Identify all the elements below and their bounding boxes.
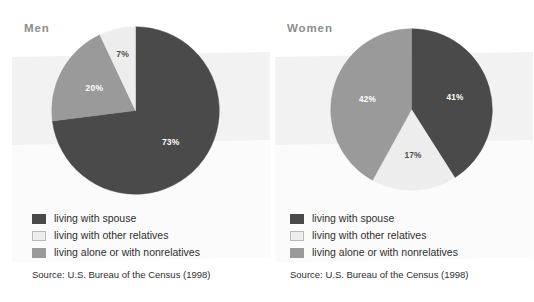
legend-item-spouse[interactable]: living with spouse [32, 211, 200, 226]
legend-item-other-relatives[interactable]: living with other relatives [290, 228, 458, 243]
chart-panel-women: Women 41%17%42% living with spouse livin… [267, 0, 534, 302]
pie-slice-label: 73% [162, 137, 180, 147]
legend-item-alone-nonrelatives[interactable]: living alone or with nonrelatives [290, 245, 458, 260]
legend-item-spouse[interactable]: living with spouse [290, 211, 458, 226]
figure-root: Men 73%20%7% living with spouse living w… [0, 0, 534, 302]
source-note-women: Source: U.S. Bureau of the Census (1998) [290, 269, 469, 280]
other-relatives-swatch-icon [32, 231, 46, 241]
legend-label: living with spouse [312, 213, 394, 224]
legend-label: living with other relatives [312, 230, 426, 241]
pie-slice-label: 7% [116, 49, 129, 59]
other-relatives-swatch-icon [290, 231, 304, 241]
legend-label: living alone or with nonrelatives [312, 247, 458, 258]
pie-chart-men: 73%20%7% [50, 25, 221, 196]
spouse-swatch-icon [32, 214, 46, 224]
chart-title-women: Women [287, 22, 333, 34]
legend-item-alone-nonrelatives[interactable]: living alone or with nonrelatives [32, 245, 200, 260]
pie-slice-label: 41% [446, 93, 464, 102]
chart-panel-men: Men 73%20%7% living with spouse living w… [0, 0, 267, 302]
source-note-men: Source: U.S. Bureau of the Census (1998) [32, 269, 211, 280]
spouse-swatch-icon [290, 214, 304, 224]
legend-women: living with spouse living with other rel… [290, 211, 458, 262]
pie-slice-label: 20% [86, 83, 104, 93]
legend-men: living with spouse living with other rel… [32, 211, 200, 262]
pie-slice-label: 17% [404, 151, 422, 160]
alone-nonrelatives-swatch-icon [32, 248, 46, 258]
pie-chart-women: 41%17%42% [329, 27, 494, 192]
alone-nonrelatives-swatch-icon [290, 248, 304, 258]
pie-slice-label: 42% [359, 95, 377, 104]
chart-title-men: Men [24, 22, 50, 34]
legend-label: living with spouse [54, 213, 136, 224]
legend-item-other-relatives[interactable]: living with other relatives [32, 228, 200, 243]
legend-label: living alone or with nonrelatives [54, 247, 200, 258]
legend-label: living with other relatives [54, 230, 168, 241]
